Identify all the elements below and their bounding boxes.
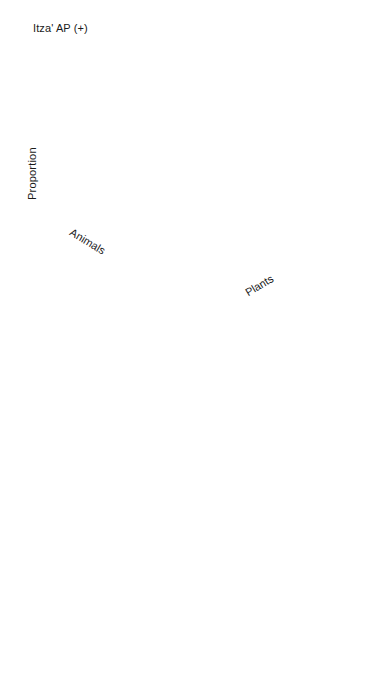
surface-panel-itza: Itza' AP (+) Proportion Animals Plants	[0, 0, 387, 344]
z-axis-title-itza: Proportion	[26, 147, 38, 200]
panel-title-itza: Itza' AP (+)	[33, 22, 88, 34]
surface-plot-ladino	[0, 344, 387, 688]
surface-plot-itza	[0, 0, 387, 344]
surface-panel-ladino: Ladino AP (+) Proportion Animals Plants	[0, 344, 387, 688]
figure-root: Itza' AP (+) Proportion Animals Plants L…	[0, 0, 387, 688]
